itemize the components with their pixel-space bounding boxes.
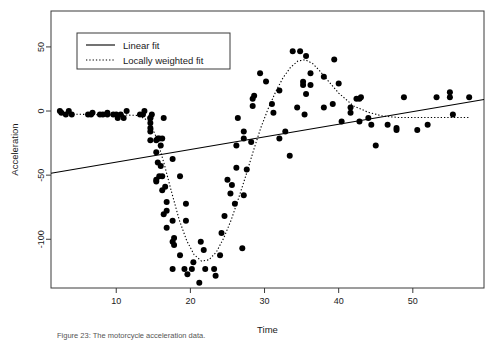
- data-point: [161, 115, 167, 121]
- y-axis-tick-label: 0: [36, 109, 46, 114]
- legend-label-2: Locally weighted fit: [123, 55, 204, 66]
- data-point: [183, 201, 189, 207]
- data-point: [162, 184, 168, 190]
- data-point: [232, 201, 238, 207]
- data-point: [294, 105, 300, 111]
- data-point: [244, 167, 250, 173]
- data-point: [308, 82, 314, 88]
- data-point: [177, 252, 183, 258]
- data-point: [177, 173, 183, 179]
- x-axis-tick-label: 10: [111, 296, 121, 306]
- data-point: [158, 163, 164, 169]
- data-point: [124, 108, 130, 114]
- data-point: [235, 115, 241, 121]
- data-point: [217, 252, 223, 258]
- x-axis-tick-label: 30: [260, 296, 270, 306]
- data-point: [358, 94, 364, 100]
- data-point: [394, 125, 400, 131]
- data-point: [147, 129, 153, 135]
- data-point: [196, 280, 202, 286]
- data-point: [211, 266, 217, 272]
- data-point: [434, 94, 440, 100]
- data-point: [121, 115, 127, 121]
- x-axis-tick-label: 40: [334, 296, 344, 306]
- data-point: [153, 178, 159, 184]
- data-point: [348, 110, 354, 116]
- data-point: [303, 53, 309, 59]
- data-point: [321, 105, 327, 111]
- data-point: [425, 122, 431, 128]
- data-point: [263, 78, 269, 84]
- data-point: [239, 245, 245, 251]
- data-point: [276, 88, 282, 94]
- data-point: [202, 266, 208, 272]
- data-point: [269, 101, 275, 107]
- data-point: [170, 156, 176, 162]
- data-point: [189, 266, 195, 272]
- data-point: [250, 103, 256, 109]
- data-point: [198, 239, 204, 245]
- x-axis-tick-label: 20: [185, 296, 195, 306]
- y-axis-tick-label: 50: [36, 42, 46, 52]
- data-point: [300, 82, 306, 88]
- data-point: [219, 230, 225, 236]
- y-axis-title: Acceleration: [9, 123, 20, 175]
- data-point: [241, 129, 247, 135]
- data-point: [339, 118, 345, 124]
- data-point: [147, 120, 153, 126]
- data-point: [164, 225, 170, 231]
- data-point: [466, 94, 472, 100]
- data-point: [164, 199, 170, 205]
- data-point: [171, 242, 177, 248]
- data-point: [141, 108, 147, 114]
- data-point: [227, 191, 233, 197]
- data-point: [276, 136, 282, 142]
- data-point: [164, 208, 170, 214]
- data-point: [297, 48, 303, 54]
- data-point: [248, 139, 254, 145]
- data-point: [69, 111, 75, 117]
- data-point: [321, 74, 327, 80]
- linear-fit-line: [51, 99, 484, 173]
- data-point: [159, 173, 165, 179]
- data-point: [303, 91, 309, 97]
- x-axis-tick-label: 50: [408, 296, 418, 306]
- data-point: [147, 137, 153, 143]
- data-point: [183, 218, 189, 224]
- data-point: [330, 101, 336, 107]
- data-point: [190, 259, 196, 265]
- data-point: [368, 122, 374, 128]
- data-point: [233, 165, 239, 171]
- data-point: [241, 136, 247, 142]
- data-point: [290, 48, 296, 54]
- data-point: [414, 127, 420, 133]
- data-point: [270, 110, 276, 116]
- data-point: [282, 129, 288, 135]
- data-point: [90, 110, 96, 116]
- data-point: [401, 94, 407, 100]
- data-point: [170, 218, 176, 224]
- data-point: [241, 192, 247, 198]
- loess-fit-line: [60, 60, 469, 261]
- data-point: [201, 247, 207, 253]
- data-point: [181, 266, 187, 272]
- data-point: [336, 80, 342, 86]
- data-point: [331, 56, 337, 62]
- chart-plot: 1020304050500-50-100TimeAccelerationLine…: [0, 0, 499, 343]
- data-point: [348, 105, 354, 111]
- data-point: [159, 136, 165, 142]
- data-point: [287, 153, 293, 159]
- scatter-points: [57, 48, 472, 286]
- data-point: [365, 115, 371, 121]
- data-point: [385, 122, 391, 128]
- data-point: [213, 273, 219, 279]
- data-point: [450, 111, 456, 117]
- data-point: [447, 89, 453, 95]
- data-point: [104, 111, 110, 117]
- data-point: [302, 111, 308, 117]
- data-point: [149, 111, 155, 117]
- data-point: [229, 182, 235, 188]
- figure-caption: Figure 23: The motorcycle acceleration d…: [57, 331, 477, 341]
- data-point: [308, 70, 314, 76]
- data-point: [356, 118, 362, 124]
